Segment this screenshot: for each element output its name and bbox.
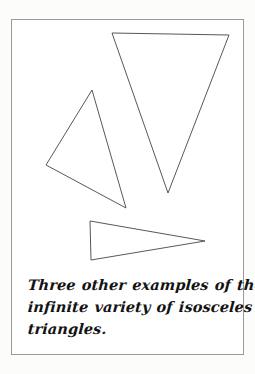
figure-caption: Three other examples of the infinite var…	[27, 274, 231, 340]
page-root: Three other examples of the infinite var…	[0, 0, 255, 374]
caption-line-3: triangles.	[27, 318, 233, 340]
caption-line-1: Three other examples of the	[27, 274, 233, 296]
caption-line-2: infinite variety of isosceles	[27, 296, 233, 318]
